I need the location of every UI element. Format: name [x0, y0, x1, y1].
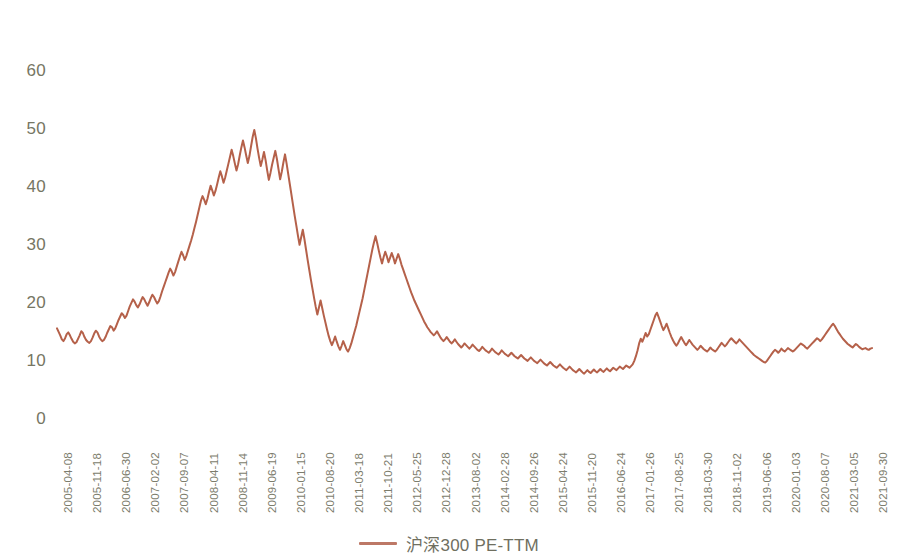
legend-label: 沪深300 PE-TTM	[406, 531, 539, 556]
x-tick-label: 2005-11-18	[91, 453, 103, 513]
series-line-hs300-pe-ttm	[57, 130, 872, 374]
x-tick-label: 2012-05-25	[411, 452, 423, 513]
x-tick-label: 2010-08-20	[324, 452, 336, 513]
x-tick-label: 2017-08-25	[673, 452, 685, 513]
x-tick-label: 2020-08-07	[819, 452, 831, 513]
x-tick-label: 2018-11-02	[731, 453, 743, 513]
y-tick-label: 20	[0, 293, 46, 313]
x-tick-label: 2010-01-15	[295, 452, 307, 513]
x-tick-label: 2006-06-30	[120, 452, 132, 513]
chart-legend: 沪深300 PE-TTM	[0, 529, 898, 557]
x-tick-label: 2021-03-05	[848, 452, 860, 513]
x-tick-label: 2009-06-19	[266, 452, 278, 513]
y-tick-label: 50	[0, 119, 46, 139]
y-tick-label: 30	[0, 235, 46, 255]
pe-ttm-line-chart: 0102030405060 2005-04-082005-11-182006-0…	[0, 0, 898, 557]
x-tick-label: 2021-09-30	[877, 452, 889, 513]
x-tick-label: 2014-09-26	[528, 452, 540, 513]
x-tick-label: 2007-02-02	[149, 452, 161, 513]
y-tick-label: 40	[0, 177, 46, 197]
x-tick-label: 2015-11-20	[586, 453, 598, 513]
x-tick-label: 2020-01-03	[790, 452, 802, 513]
x-tick-label: 2014-02-28	[499, 452, 511, 513]
x-tick-label: 2012-12-28	[440, 452, 452, 513]
x-tick-label: 2007-09-07	[178, 452, 190, 513]
x-tick-label: 2018-03-30	[702, 452, 714, 513]
legend-line-swatch	[359, 542, 397, 545]
x-tick-label: 2017-01-26	[644, 452, 656, 513]
x-tick-label: 2019-06-06	[761, 452, 773, 513]
y-tick-label: 60	[0, 61, 46, 81]
x-tick-label: 2008-11-14	[237, 453, 249, 513]
y-tick-label: 0	[0, 409, 46, 429]
x-tick-label: 2011-10-21	[382, 453, 394, 513]
y-tick-label: 10	[0, 351, 46, 371]
x-tick-label: 2015-04-24	[557, 452, 569, 513]
x-tick-label: 2011-03-18	[353, 453, 365, 513]
x-tick-label: 2005-04-08	[62, 452, 74, 513]
x-tick-label: 2008-04-11	[208, 453, 220, 513]
x-tick-label: 2016-06-24	[615, 452, 627, 513]
x-tick-label: 2013-08-02	[470, 452, 482, 513]
